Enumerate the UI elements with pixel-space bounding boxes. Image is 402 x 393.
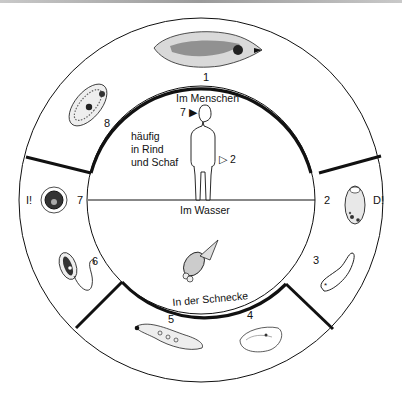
redia-icon [135,324,203,349]
stage-2-number: 2 [324,195,330,206]
host-note-line-1: häufig [131,130,178,143]
human-entry-marker: 7 ▶ [180,107,197,118]
sporocyst-icon [240,327,282,352]
svg-text:*: * [324,281,327,290]
stage-7-mark: I! [26,195,32,206]
stage-4-number: 4 [247,310,253,321]
snail-icon [179,240,218,282]
stage-1-number: 1 [203,72,209,83]
stage-6-number: 6 [92,256,98,267]
spoke-right [319,156,381,173]
host-note: häufig in Rind und Schaf [131,130,178,169]
stage-5-number: 5 [168,314,174,325]
life-cycle-diagram: * [0,0,402,393]
egg-icon [345,186,365,224]
metacercaria-icon [41,187,67,213]
stage-8-number: 8 [104,118,110,129]
human-exit-marker: ▷ 2 [219,154,236,165]
host-note-line-3: und Schaf [131,156,178,169]
spoke-left [26,157,91,173]
stage-7-number: 7 [77,195,83,206]
miracidium-icon: * [321,253,354,291]
host-note-line-2: in Rind [131,143,178,156]
stage-2-mark: D! [373,195,384,206]
zone-label-water: Im Wasser [180,205,230,216]
adult-fluke-icon [154,32,262,68]
cercaria-icon [56,250,95,290]
stage-3-number: 3 [313,255,319,266]
human-figure-icon [191,105,215,200]
zone-label-human: Im Menschen [176,93,239,104]
